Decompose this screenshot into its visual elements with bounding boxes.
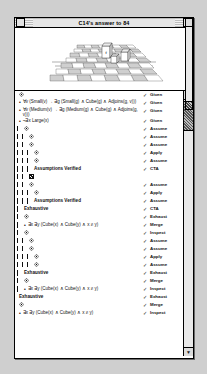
step-rule-label[interactable]: Assume <box>150 126 167 132</box>
proof-row-content[interactable]: Assumptions Verified <box>15 198 143 204</box>
proof-row-content[interactable] <box>15 230 143 235</box>
proof-row-content[interactable]: Exhaustive <box>15 270 143 276</box>
step-rule-label[interactable]: Assume <box>150 246 167 252</box>
proof-row[interactable]: •∃x ∃y (Cube(x) ∧ Cube(y) ∧ x ≠ y)✓Inspe… <box>15 286 183 294</box>
proof-row[interactable]: ✓Merge <box>15 278 183 286</box>
sentence-bullet-icon[interactable]: • <box>19 310 21 316</box>
proof-row-content[interactable]: •∀v (Medium(v) → ∃g (Medium(g) ∧ Cube(g)… <box>15 107 143 118</box>
proof-row[interactable]: ✓Assume <box>15 262 183 270</box>
outer-scroll-up-arrow-icon[interactable] <box>186 19 192 27</box>
close-box-icon[interactable] <box>16 18 25 27</box>
blocks-world-pane[interactable]: f <box>15 28 193 91</box>
sentence-bullet-icon[interactable]: • <box>19 118 21 124</box>
proof-row-content[interactable] <box>15 254 143 259</box>
proof-row[interactable]: ✓Apply <box>15 190 183 198</box>
proof-row-content[interactable] <box>15 142 143 147</box>
diamond-step-icon[interactable] <box>19 302 24 307</box>
proof-vertical-scrollbar[interactable]: ▲ ▼ <box>183 91 193 356</box>
step-rule-label[interactable]: Assume <box>150 134 167 140</box>
diamond-step-icon[interactable] <box>29 182 34 187</box>
outer-scroll-thumb[interactable] <box>186 101 192 109</box>
step-rule-label[interactable]: Assume <box>150 158 167 164</box>
proof-row-content[interactable] <box>15 190 143 195</box>
step-rule-label[interactable]: Given <box>150 118 162 124</box>
proof-row[interactable]: ✓Assume <box>15 158 183 166</box>
proof-row-content[interactable]: •∃x ∃y (Cube(x) ∧ Cube(y) ∧ x ≠ y) <box>15 310 143 316</box>
proof-row[interactable]: ✓Assume <box>15 238 183 246</box>
step-rule-label[interactable]: Inspect <box>150 310 165 316</box>
proof-row[interactable]: ✓Assume <box>15 246 183 254</box>
proof-row-content[interactable] <box>15 150 143 155</box>
diamond-step-icon[interactable] <box>24 230 29 235</box>
step-rule-label[interactable]: Given <box>150 108 162 114</box>
step-rule-label[interactable]: Assume <box>150 142 167 148</box>
step-rule-label[interactable]: Inspect <box>150 286 165 292</box>
proof-row[interactable]: •∀v (Small(v) → ∃g (Small(g) ∧ Cube(g) ∧… <box>15 99 183 107</box>
proof-row-content[interactable]: Assumptions Verified <box>15 166 143 172</box>
proof-row[interactable]: ✓Inspect <box>15 230 183 238</box>
step-rule-label[interactable]: Exhaust <box>150 294 167 300</box>
proof-row-content[interactable]: •¬∃x Large(x) <box>15 118 143 124</box>
step-rule-label[interactable]: Assume <box>150 262 167 268</box>
step-rule-label[interactable]: Merge <box>150 278 163 284</box>
proof-row[interactable]: •¬∃x Large(x)✓Given <box>15 118 183 126</box>
step-rule-label[interactable]: Merge <box>150 302 163 308</box>
proof-row-content[interactable] <box>15 246 143 251</box>
proof-row-content[interactable]: •∃x ∃y (Cube(x) ∧ Cube(y) ∧ x ≠ y) <box>15 222 143 228</box>
step-rule-label[interactable]: Apply <box>150 254 162 260</box>
proof-row[interactable]: •∀v (Medium(v) → ∃g (Medium(g) ∧ Cube(g)… <box>15 107 183 118</box>
proof-pane[interactable]: ✓Given•∀v (Small(v) → ∃g (Small(g) ∧ Cub… <box>15 91 193 356</box>
proof-row-content[interactable]: Exhaustive <box>15 206 143 212</box>
proof-row[interactable]: Exhaustive✓Exhaust <box>15 270 183 278</box>
selected-step-icon[interactable] <box>29 174 34 179</box>
proof-row[interactable]: ✓Assume <box>15 142 183 150</box>
scroll-down-arrow-icon[interactable]: ▼ <box>184 347 193 356</box>
proof-row-content[interactable] <box>15 182 143 187</box>
diamond-step-icon[interactable] <box>24 214 29 219</box>
step-rule-label[interactable]: Given <box>150 92 162 98</box>
proof-row[interactable]: ✓Apply <box>15 150 183 158</box>
sentence-bullet-icon[interactable]: • <box>24 222 26 228</box>
proof-row-content[interactable] <box>15 134 143 139</box>
proof-row-content[interactable] <box>15 302 143 307</box>
diamond-step-icon[interactable] <box>19 92 24 97</box>
sentence-bullet-icon[interactable]: • <box>19 107 21 113</box>
proof-row[interactable]: •∃x ∃y (Cube(x) ∧ Cube(y) ∧ x ≠ y)✓Merge <box>15 222 183 230</box>
proof-row-content[interactable]: •∀v (Small(v) → ∃g (Small(g) ∧ Cube(g) ∧… <box>15 99 143 105</box>
sentence-bullet-icon[interactable]: • <box>19 99 21 105</box>
diamond-step-icon[interactable] <box>24 278 29 283</box>
step-rule-label[interactable]: Assume <box>150 182 167 188</box>
proof-row[interactable]: ✓Assume <box>15 182 183 190</box>
step-rule-label[interactable]: CTA <box>150 206 159 212</box>
diamond-step-icon[interactable] <box>29 246 34 251</box>
step-rule-label[interactable]: Exhaust <box>150 214 167 220</box>
proof-row[interactable]: Exhaustive✓Exhaust <box>15 294 183 302</box>
step-rule-label[interactable]: Given <box>150 100 162 106</box>
proof-row-content[interactable]: Exhaustive <box>15 294 143 300</box>
proof-step-list[interactable]: ✓Given•∀v (Small(v) → ∃g (Small(g) ∧ Cub… <box>15 91 183 356</box>
proof-row[interactable]: Assumptions Verified✓Assume <box>15 198 183 206</box>
proof-row-content[interactable] <box>15 278 143 283</box>
diamond-step-icon[interactable] <box>34 190 39 195</box>
step-rule-label[interactable]: Inspect <box>150 230 165 236</box>
diamond-step-icon[interactable] <box>34 262 39 267</box>
window-outer-vertical-scrollbar[interactable] <box>185 18 193 110</box>
proof-row-content[interactable] <box>15 262 143 267</box>
diamond-step-icon[interactable] <box>29 238 34 243</box>
sentence-bullet-icon[interactable]: • <box>24 286 26 292</box>
diamond-step-icon[interactable] <box>34 158 39 163</box>
proof-row-content[interactable] <box>15 158 143 163</box>
proof-row[interactable]: ✓Assume <box>15 126 183 134</box>
step-rule-label[interactable]: Merge <box>150 222 163 228</box>
proof-row[interactable]: •∃x ∃y (Cube(x) ∧ Cube(y) ∧ x ≠ y)✓Inspe… <box>15 310 183 318</box>
step-rule-label[interactable]: Apply <box>150 190 162 196</box>
step-rule-label[interactable]: Assume <box>150 198 167 204</box>
proof-row-content[interactable]: •∃x ∃y (Cube(x) ∧ Cube(y) ∧ x ≠ y) <box>15 286 143 292</box>
proof-row[interactable]: ✓Assume <box>15 134 183 142</box>
step-rule-label[interactable]: Apply <box>150 150 162 156</box>
step-rule-label[interactable]: Exhaust <box>150 270 167 276</box>
step-rule-label[interactable]: Assume <box>150 238 167 244</box>
proof-row-content[interactable] <box>15 238 143 243</box>
proof-row[interactable] <box>15 174 183 182</box>
diamond-step-icon[interactable] <box>24 126 29 131</box>
